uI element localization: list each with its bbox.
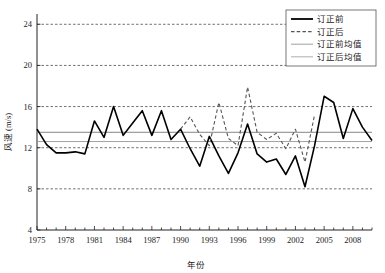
- y-tick-label: 8: [28, 184, 32, 194]
- y-axis-title: 风速 (m/s): [3, 113, 13, 151]
- legend-label: 订正后均值: [317, 52, 362, 62]
- y-tick-label: 4: [28, 225, 33, 235]
- x-tick-label: 1990: [172, 235, 189, 245]
- x-axis-tick-labels: 1975197819811984198719901993199619992002…: [29, 235, 362, 245]
- x-tick-label: 1987: [143, 235, 160, 245]
- chart-canvas: 4812162024 19751978198119841987199019931…: [0, 0, 385, 273]
- x-tick-label: 1999: [258, 235, 275, 245]
- x-tick-label: 2005: [316, 235, 333, 245]
- legend-label: 订正前均值: [317, 39, 362, 49]
- x-axis-title: 年份: [187, 260, 205, 270]
- x-tick-label: 2002: [287, 235, 304, 245]
- y-tick-label: 20: [24, 60, 33, 70]
- y-axis-tick-labels: 4812162024: [24, 19, 33, 235]
- x-tick-label: 1984: [115, 235, 133, 245]
- x-tick-label: 2008: [344, 235, 361, 245]
- chart-legend: 订正前订正后订正前均值订正后均值: [286, 10, 376, 66]
- y-tick-label: 12: [24, 143, 33, 153]
- legend-label: 订正后: [317, 27, 344, 37]
- x-tick-label: 1981: [86, 235, 103, 245]
- legend-label: 订正前: [317, 14, 344, 24]
- y-tick-label: 24: [24, 19, 33, 29]
- x-tick-label: 1978: [57, 235, 74, 245]
- data-series: [37, 87, 372, 187]
- x-tick-label: 1993: [201, 235, 218, 245]
- y-tick-label: 16: [24, 102, 33, 112]
- x-tick-label: 1996: [230, 235, 247, 245]
- x-tick-label: 1975: [29, 235, 46, 245]
- wind-speed-line-chart: 4812162024 19751978198119841987199019931…: [0, 0, 385, 273]
